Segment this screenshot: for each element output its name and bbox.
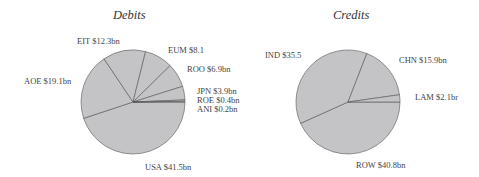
- label-ani: ANI $0.2bn: [197, 104, 238, 114]
- pie-charts-canvas: [0, 0, 479, 177]
- credits-title: Credits: [333, 8, 369, 23]
- label-aoe: AOE $19.1bn: [24, 76, 71, 86]
- label-eum: EUM $8.1: [168, 45, 204, 55]
- debits-pie: [81, 50, 185, 154]
- debits-title: Debits: [113, 8, 146, 23]
- label-ind: IND $35.5: [265, 50, 301, 60]
- label-lam: LAM $2.1br: [415, 92, 458, 102]
- label-eit: EIT $12.3bn: [77, 36, 120, 46]
- label-chn: CHN $15.9bn: [399, 55, 447, 65]
- label-roo: ROO $6.9bn: [187, 64, 230, 74]
- label-row: ROW $40.8bn: [356, 160, 405, 170]
- label-usa: USA $41.5bn: [145, 162, 191, 172]
- credits-pie: [296, 50, 400, 154]
